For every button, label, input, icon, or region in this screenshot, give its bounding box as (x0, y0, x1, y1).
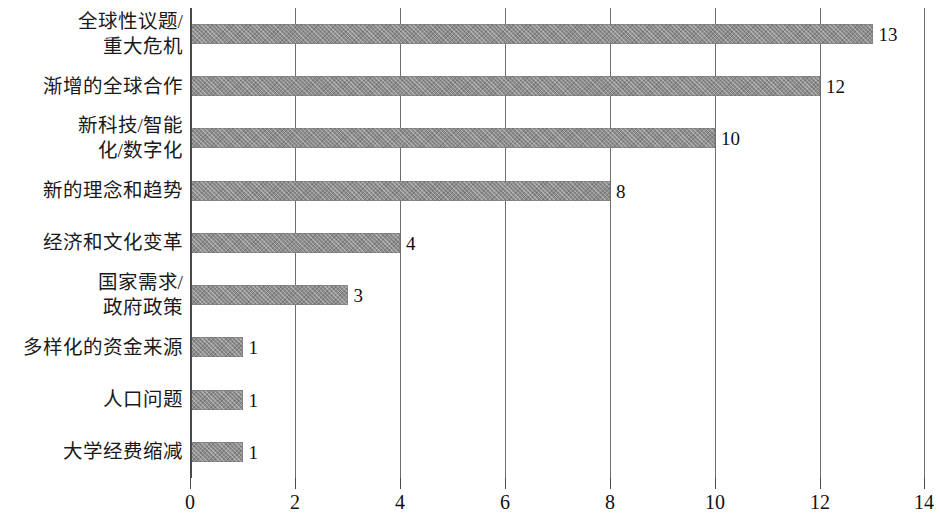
bar-6[interactable] (190, 337, 243, 357)
table-row: 1 (190, 374, 925, 426)
bar-0[interactable] (190, 24, 873, 44)
bar-value-label: 12 (820, 77, 845, 96)
xtick-12 (820, 478, 821, 489)
bar-3[interactable] (190, 181, 610, 201)
xtick-10 (715, 478, 716, 489)
value-axis-baseline (190, 8, 192, 478)
bar-value-label: 1 (243, 442, 259, 461)
bar-2[interactable] (190, 128, 715, 148)
bar-value-label: 13 (873, 25, 898, 44)
category-label-text: 多样化的资金来源 (23, 335, 190, 360)
xtick-label-12: 12 (810, 492, 830, 512)
table-row: 3 (190, 269, 925, 321)
category-label-3: 新的理念和趋势 (0, 165, 190, 217)
category-label-text: 新的理念和趋势 (43, 178, 190, 203)
bar-value-label: 10 (715, 129, 740, 148)
category-label-8: 大学经费缩减 (0, 426, 190, 478)
xtick-0 (190, 478, 191, 489)
category-label-1: 渐增的全球合作 (0, 60, 190, 112)
bar-value-label: 1 (243, 338, 259, 357)
bar-value-label: 3 (348, 286, 364, 305)
category-axis-labels: 全球性议题/ 重大危机 渐增的全球合作 新科技/智能 化/数字化 新的理念和趋势… (0, 8, 190, 478)
category-label-0: 全球性议题/ 重大危机 (0, 8, 190, 60)
bar-4[interactable] (190, 233, 400, 253)
xtick-label-8: 8 (605, 492, 615, 512)
table-row: 1 (190, 321, 925, 373)
xtick-label-6: 6 (500, 492, 510, 512)
category-label-text: 国家需求/ 政府政策 (98, 270, 190, 320)
xtick-label-14: 14 (914, 492, 934, 512)
bar-value-label: 8 (610, 181, 626, 200)
bar-value-label: 1 (243, 390, 259, 409)
xtick-2 (295, 478, 296, 489)
bar-5[interactable] (190, 285, 348, 305)
table-row: 4 (190, 217, 925, 269)
bar-value-label: 4 (400, 233, 416, 252)
category-label-5: 国家需求/ 政府政策 (0, 269, 190, 321)
category-label-2: 新科技/智能 化/数字化 (0, 112, 190, 164)
category-label-text: 大学经费缩减 (63, 439, 190, 464)
xtick-6 (505, 478, 506, 489)
xtick-label-0: 0 (185, 492, 195, 512)
category-label-7: 人口问题 (0, 374, 190, 426)
bar-8[interactable] (190, 442, 243, 462)
bar-chart: 全球性议题/ 重大危机 渐增的全球合作 新科技/智能 化/数字化 新的理念和趋势… (0, 0, 940, 526)
bar-7[interactable] (190, 390, 243, 410)
bar-1[interactable] (190, 76, 820, 96)
table-row: 8 (190, 165, 925, 217)
xtick-label-4: 4 (395, 492, 405, 512)
table-row: 12 (190, 60, 925, 112)
category-label-text: 渐增的全球合作 (43, 74, 190, 99)
plot-area: 13 12 10 8 4 3 1 1 (190, 8, 925, 478)
table-row: 13 (190, 8, 925, 60)
category-label-6: 多样化的资金来源 (0, 321, 190, 373)
category-label-4: 经济和文化变革 (0, 217, 190, 269)
category-label-text: 人口问题 (103, 387, 190, 412)
table-row: 10 (190, 112, 925, 164)
category-label-text: 经济和文化变革 (43, 230, 190, 255)
xtick-4 (400, 478, 401, 489)
xtick-14 (924, 478, 925, 489)
xtick-label-2: 2 (290, 492, 300, 512)
xtick-label-10: 10 (705, 492, 725, 512)
category-label-text: 全球性议题/ 重大危机 (78, 9, 190, 59)
category-label-text: 新科技/智能 化/数字化 (78, 113, 190, 163)
table-row: 1 (190, 426, 925, 478)
xtick-8 (610, 478, 611, 489)
